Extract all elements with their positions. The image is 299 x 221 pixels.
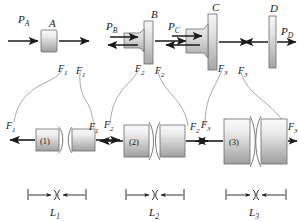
diagram-svg: PA A F1 PB B F1 F2 PC C F2 F3 D PD F3	[0, 0, 299, 221]
label-load-PC: PC	[167, 20, 181, 35]
body-C-flange	[208, 14, 217, 70]
segment-2-break-left	[149, 122, 154, 160]
label-F3-at-C: F3	[217, 63, 228, 77]
segment-2-right-part	[160, 125, 185, 157]
label-L2: L2	[148, 206, 159, 221]
body-C-group	[166, 14, 249, 70]
segment-1-break-left	[59, 127, 63, 153]
label-body-D: D	[269, 2, 278, 14]
label-body-B: B	[151, 8, 158, 20]
body-B-flange	[144, 21, 153, 64]
segment-1-group	[10, 127, 120, 153]
leader-F2-right	[158, 72, 188, 126]
label-L1: L1	[49, 206, 60, 221]
label-segment-3-number: (3)	[229, 137, 239, 147]
segment-3-group	[196, 116, 297, 167]
leader-F1-left	[14, 70, 62, 122]
body-D-plate	[269, 16, 276, 68]
label-segment-3-right-force: F3	[287, 121, 298, 135]
label-body-A: A	[48, 17, 56, 29]
segment-2-break-right	[156, 122, 161, 160]
dim-L1-break-right	[58, 190, 60, 200]
label-body-C: C	[212, 1, 220, 13]
body-A-block	[41, 30, 57, 52]
label-segment-2-right-force: F2	[189, 121, 200, 135]
label-segment-1-left-force: F1	[5, 120, 16, 134]
dimension-lines	[28, 189, 286, 200]
label-load-PB: PB	[105, 20, 118, 35]
dim-L2-break-right	[156, 190, 158, 200]
label-segment-1-number: (1)	[40, 136, 50, 146]
dim-L1-break-left	[54, 190, 56, 200]
segment-3-break-left	[250, 116, 255, 167]
dim-L3-break-left	[253, 190, 255, 200]
body-C-shaft	[186, 24, 208, 58]
segment-3-break-right	[256, 116, 261, 167]
dim-L2-break-left	[152, 190, 154, 200]
label-F1-at-B: F1	[75, 65, 86, 79]
leader-F3-right	[241, 72, 285, 124]
body-A-group	[8, 30, 89, 52]
label-segment-2-number: (2)	[129, 137, 139, 147]
body-B-shaft	[124, 29, 144, 52]
label-load-PD: PD	[280, 25, 294, 40]
segment-3-right-part	[261, 119, 287, 164]
label-load-PA: PA	[17, 13, 30, 28]
figure-canvas: PA A F1 PB B F1 F2 PC C F2 F3 D PD F3	[0, 0, 299, 221]
segment-1-right-part	[72, 129, 95, 151]
label-segment-3-left-force: F3	[200, 119, 211, 133]
leader-F2-left	[110, 70, 139, 124]
leader-F3-left	[205, 70, 222, 124]
leader-F1-right	[80, 72, 94, 126]
body-D-group	[244, 16, 296, 68]
label-segment-2-left-force: F2	[103, 119, 114, 133]
segment-1-break-right	[68, 127, 72, 153]
dim-L3-break-right	[257, 190, 259, 200]
label-L3: L3	[248, 206, 259, 221]
